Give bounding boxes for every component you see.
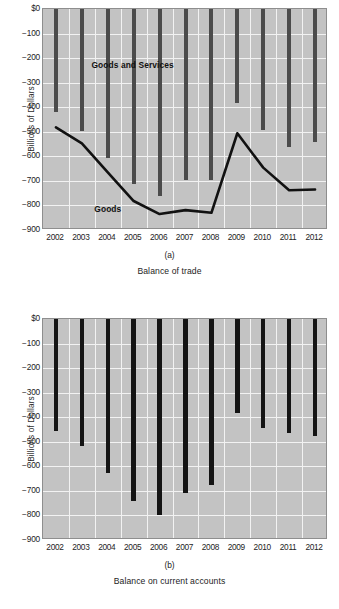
panel-letter-a: (a) <box>0 250 339 260</box>
gridline-vertical <box>69 319 70 538</box>
x-axis-tick-label: 2008 <box>202 232 219 242</box>
y-axis-tick-label: −600 <box>6 460 40 470</box>
bar <box>131 319 135 501</box>
gridline-vertical <box>121 319 122 538</box>
y-axis-tick-label: −300 <box>6 387 40 397</box>
y-axis-tick-label: −100 <box>6 28 40 38</box>
y-axis-tick-label: −200 <box>6 52 40 62</box>
bar <box>235 319 239 413</box>
gridline-vertical <box>173 319 174 538</box>
figure-panel-a: Billions of Dollars $0−100−200−300−400−5… <box>0 0 339 285</box>
series-label: Goods <box>94 204 121 214</box>
gridline-vertical <box>276 319 277 538</box>
y-axis-tick-label: −800 <box>6 509 40 519</box>
y-axis-tick-label: −500 <box>6 126 40 136</box>
x-axis-tick-label: 2005 <box>124 232 141 242</box>
x-axis-tick-label: 2009 <box>228 232 245 242</box>
bar <box>209 319 213 485</box>
plot-area-a: Goods and ServicesGoods <box>42 8 327 229</box>
x-axis-tick-label: 2012 <box>305 232 322 242</box>
bar <box>80 319 84 446</box>
x-axis-tick-label: 2004 <box>98 232 115 242</box>
bar <box>157 319 161 515</box>
x-axis-tick-label: 2009 <box>228 542 245 552</box>
x-axis-tick-label: 2006 <box>150 232 167 242</box>
x-axis-tick-label: 2004 <box>98 542 115 552</box>
x-axis-ticks-b: 2002200320042005200620072008200920102011… <box>0 542 339 556</box>
x-axis-tick-label: 2007 <box>176 542 193 552</box>
x-axis-tick-label: 2002 <box>46 232 63 242</box>
gridline-vertical <box>250 319 251 538</box>
figure-panel-b: Billions of Dollars $0−100−200−300−400−5… <box>0 290 339 609</box>
y-axis-tick-label: −800 <box>6 199 40 209</box>
bar <box>287 319 291 433</box>
goods-line-series <box>43 9 328 230</box>
y-axis-tick-label: −400 <box>6 411 40 421</box>
gridline-vertical <box>224 319 225 538</box>
caption-b: Balance on current accounts <box>0 576 339 586</box>
x-axis-tick-label: 2011 <box>280 232 297 242</box>
panel-letter-b: (b) <box>0 560 339 570</box>
gridline-vertical <box>302 319 303 538</box>
bar <box>54 319 58 431</box>
x-axis-tick-label: 2010 <box>254 542 271 552</box>
y-axis-tick-label: −500 <box>6 436 40 446</box>
y-axis-tick-label: −700 <box>6 175 40 185</box>
y-axis-tick-label: −600 <box>6 150 40 160</box>
caption-a: Balance of trade <box>0 266 339 276</box>
bar <box>183 319 187 493</box>
x-axis-tick-label: 2007 <box>176 232 193 242</box>
plot-area-b <box>42 318 327 539</box>
x-axis-tick-label: 2008 <box>202 542 219 552</box>
x-axis-tick-label: 2012 <box>305 542 322 552</box>
y-axis-tick-label: $0 <box>6 3 40 13</box>
gridline-vertical <box>95 319 96 538</box>
gridline-horizontal <box>43 515 326 516</box>
x-axis-ticks-a: 2002200320042005200620072008200920102011… <box>0 232 339 246</box>
y-axis-tick-label: −400 <box>6 101 40 111</box>
series-label: Goods and Services <box>91 60 173 70</box>
x-axis-tick-label: 2005 <box>124 542 141 552</box>
x-axis-tick-label: 2003 <box>72 232 89 242</box>
gridline-vertical <box>198 319 199 538</box>
x-axis-tick-label: 2011 <box>280 542 297 552</box>
y-axis-tick-label: −300 <box>6 77 40 87</box>
bar <box>106 319 110 473</box>
x-axis-tick-label: 2010 <box>254 232 271 242</box>
bar <box>313 319 317 436</box>
y-axis-ticks-a: $0−100−200−300−400−500−600−700−800−900 <box>6 8 40 229</box>
y-axis-tick-label: −200 <box>6 362 40 372</box>
goods-line-path <box>56 127 315 214</box>
y-axis-tick-label: $0 <box>6 313 40 323</box>
x-axis-tick-label: 2002 <box>46 542 63 552</box>
bar <box>261 319 265 428</box>
gridline-vertical <box>147 319 148 538</box>
x-axis-tick-label: 2006 <box>150 542 167 552</box>
y-axis-tick-label: −700 <box>6 485 40 495</box>
y-axis-ticks-b: $0−100−200−300−400−500−600−700−800−900 <box>6 318 40 539</box>
y-axis-tick-label: −100 <box>6 338 40 348</box>
x-axis-tick-label: 2003 <box>72 542 89 552</box>
